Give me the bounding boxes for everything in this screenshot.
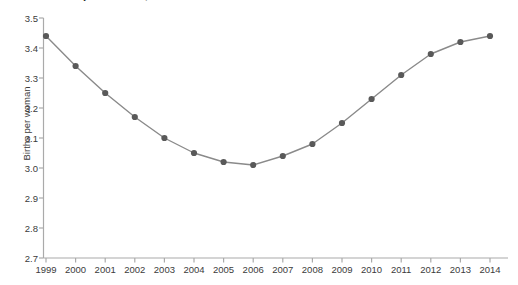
x-axis-tick-labels: 1999200020012002200320042005200620072008… xyxy=(0,0,518,285)
x-tick-label: 2014 xyxy=(470,264,510,275)
line-chart: Births per woman, 1999-2014 Births per w… xyxy=(0,0,518,285)
